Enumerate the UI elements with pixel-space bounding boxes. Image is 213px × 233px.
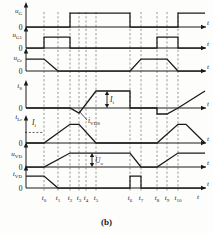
signal-label-uG: uG <box>15 7 23 16</box>
figure-container: 0uGt0uG1t0uCrt0iSt0iLrt0uVDt0iVDt IiIiiV… <box>0 0 213 233</box>
annotation-iVDS: iVDS <box>88 116 100 126</box>
time-axis-label-uCr: t <box>207 63 210 71</box>
time-axis-arrow-uG <box>201 25 206 29</box>
zero-label-iS: 0 <box>19 104 23 113</box>
time-tick-labels: t0t1t2t3t4t5t6t7t8t9t10t <box>42 193 200 203</box>
time-tick-t4: t4 <box>84 194 89 203</box>
time-tick-t0: t0 <box>42 194 47 203</box>
Ii-is-arrow-head-down <box>105 104 109 108</box>
time-tick-t5: t5 <box>94 194 99 203</box>
time-tick-t6: t6 <box>128 194 133 203</box>
signal-label-uG1: uG1 <box>12 31 22 40</box>
signal-label-iS: iS <box>17 82 22 91</box>
time-tick-t2: t2 <box>68 194 73 203</box>
time-axis-label-uVD: t <box>207 159 210 167</box>
value-axis-arrow-iLr <box>24 115 28 121</box>
time-axis-label-uG1: t <box>207 40 210 48</box>
signal-label-uCr: uCr <box>14 54 23 63</box>
time-tick-t9: t9 <box>165 194 170 203</box>
value-axis-arrow-iVD <box>24 165 28 171</box>
zero-label-uCr: 0 <box>19 67 23 76</box>
zero-label-uG1: 0 <box>19 44 23 53</box>
annotation-Uo: Uo <box>95 156 103 166</box>
axes-group <box>24 2 206 190</box>
zero-label-iLr: 0 <box>19 139 23 148</box>
time-tick-t3: t3 <box>77 194 82 203</box>
zero-label-iVD: 0 <box>19 184 23 193</box>
time-axis-label-iVD: t <box>207 180 210 188</box>
Uo-arrow-head-down <box>90 163 94 167</box>
zero-label-uG: 0 <box>19 23 23 32</box>
time-axis-label-uG: t <box>207 19 210 27</box>
time-axis-label-bottom: t <box>197 193 200 201</box>
iVDS-leader-line <box>79 111 87 120</box>
time-tick-t7: t7 <box>139 194 144 203</box>
signal-label-uVD: uVD <box>11 150 22 159</box>
trace-uG <box>26 13 205 27</box>
figure-caption: (b) <box>0 217 213 227</box>
trace-uG1 <box>26 37 205 48</box>
zero-label-uVD: 0 <box>19 163 23 172</box>
trace-uCr <box>26 59 205 71</box>
time-axis-arrow-iS <box>201 106 206 110</box>
time-axis-label-iS: t <box>207 100 210 108</box>
time-tick-t1: t1 <box>56 194 61 203</box>
waveform-timing-diagram: 0uGt0uG1t0uCrt0iSt0iLrt0uVDt0iVDt IiIiiV… <box>0 0 213 233</box>
signal-label-iLr: iLr <box>15 113 22 122</box>
value-axis-arrow-iS <box>24 80 28 86</box>
time-tick-t8: t8 <box>155 194 160 203</box>
annotation-Ii-is: Ii <box>109 95 115 105</box>
annotation-Ii-ilr: Ii <box>31 118 37 128</box>
value-axis-arrow-uG <box>24 2 28 8</box>
time-axis-arrow-uVD <box>201 165 206 169</box>
time-tick-t10: t10 <box>175 194 182 203</box>
time-axis-label-iLr: t <box>207 135 210 143</box>
value-axis-arrow-uCr <box>24 48 28 54</box>
